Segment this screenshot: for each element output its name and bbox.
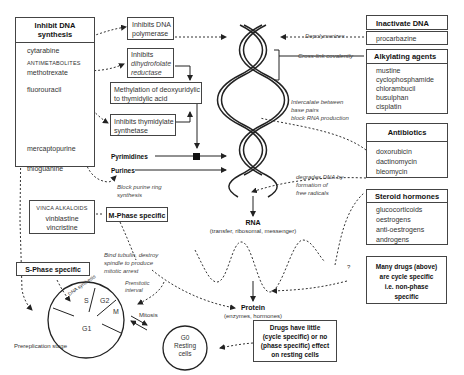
drug-methotrexate: methotrexate [27, 68, 68, 77]
alkylating-agents-box: Alkylating agents mustine cyclophosphami… [366, 49, 448, 114]
drug-vinblastine: vinblastine [30, 214, 94, 223]
text-line: mitotic arrest [104, 267, 158, 275]
inhibit-dna-synthesis-title-1: Inhibit DNA [16, 21, 94, 30]
antibiotics-title: Antibiotics [367, 128, 447, 137]
g0-label: G0 [168, 334, 202, 342]
text-line: Block purine ring [117, 183, 162, 191]
steroid-title: Steroid hormones [367, 192, 447, 201]
many-drugs-box: Many drugs (above) are cycle specific i.… [366, 256, 447, 304]
drug-vincristine: vincristine [30, 223, 94, 232]
pyrimidines-label: Pyrimidines [111, 152, 148, 161]
alkylating-title: Alkylating agents [374, 52, 436, 61]
depolymerizes-label: Depolymerizes [305, 32, 345, 41]
purines-label: Purines [111, 166, 135, 175]
vinca-alkaloids-box: VINCA ALKALOIDS vinblastine vincristine [29, 200, 95, 234]
text-line: spindle to produce [104, 259, 158, 267]
prereplication-label: Prereplication stage [14, 342, 67, 351]
text-line: are cycle specific [367, 272, 446, 281]
steroid-hormones-box: Steroid hormones glucocorticoids oestrog… [366, 189, 448, 245]
inactivate-dna-box: Inactivate DNA [366, 15, 448, 30]
inhibits-dhfr-box: Inhibits dihydrofolate reductase [127, 48, 174, 78]
phase-g2-label: G2 [100, 296, 109, 305]
drug-procarbazine: procarbazine [376, 34, 416, 43]
intercalate-label: Intercalate between base pairs block RNA… [291, 98, 349, 122]
text-line: (phase specific) effect [254, 341, 336, 350]
methylation-box: Methylation of deoxyuridylic to thymidyl… [110, 82, 202, 104]
procarbazine-box: procarbazine [366, 31, 448, 45]
phase-g1-label: G1 [82, 324, 91, 333]
inhibit-dna-synthesis-box: Inhibit DNA synthesis cytarabine ANTIMET… [15, 17, 95, 167]
vinca-label: VINCA ALKALOIDS [30, 204, 94, 213]
text-line: block RNA production [291, 114, 349, 122]
protein-title: Protein [213, 303, 293, 312]
drug-doxorubicin: doxorubicin [376, 147, 412, 156]
antibiotics-box: Antibiotics doxorubicin dactinomycin ble… [366, 123, 448, 178]
drug-anti-oestrogens: anti-oestrogens [376, 225, 424, 234]
text-line: to thymidylic acid [114, 94, 167, 103]
drug-dactinomycin: dactinomycin [376, 157, 417, 166]
rna-subtitle: (transfer, ribosomal, messenger) [193, 227, 313, 236]
drug-oestrogens: oestrogens [376, 215, 411, 224]
text-line: Bind tubulin, destroy [104, 251, 158, 259]
text-line: free radicals [296, 189, 343, 197]
inhibits-dna-polymerase-box: Inhibits DNA polymerase [127, 17, 174, 40]
s-phase-label: S-Phase specific [17, 265, 89, 274]
cross-link-label: Cross-link covalently [298, 52, 353, 61]
block-purine-label: Block purine ring synthesis [117, 183, 162, 199]
antimetabolites-label: ANTIMETABOLITES [27, 59, 81, 68]
inhibit-dna-synthesis-title-2: synthesis [16, 30, 94, 39]
phase-m-label: M [113, 307, 119, 316]
drug-thioguanine: thioguanine [27, 164, 63, 173]
drug-mercaptopurine: mercaptopurine [27, 144, 76, 153]
text-line: polymerase [132, 29, 168, 38]
drug-androgens: androgens [376, 235, 409, 244]
text-line: synthesis [117, 191, 162, 199]
text-line: Inhibits DNA [132, 20, 171, 29]
s-phase-specific-box: S-Phase specific [16, 262, 90, 276]
phase-s-label: S [84, 296, 89, 305]
text-line: interval [125, 287, 149, 294]
drug-mustine: mustine [376, 66, 401, 75]
text-line: Resting [168, 342, 202, 350]
little-effect-box: Drugs have little (cycle specific) or no… [253, 320, 337, 362]
text-line: base pairs [291, 106, 349, 114]
m-phase-label: M-Phase specific [107, 211, 167, 220]
text-line: reductase [131, 68, 162, 77]
inactivate-dna-title: Inactivate DNA [376, 19, 429, 28]
inhibits-thymidylate-box: Inhibits thymidylate synthetase [110, 114, 176, 136]
text-line: Many drugs (above) [367, 262, 446, 271]
text-line: degrades DNA by [296, 173, 343, 181]
drug-chlorambucil: chlorambucil [376, 84, 415, 93]
text-line: Premitotic [125, 280, 149, 287]
text-line: cells [168, 350, 202, 358]
text-line: specific [367, 292, 446, 301]
text-line: Inhibits [131, 50, 153, 59]
text-line: i.e. non-phase [367, 282, 446, 291]
drug-bleomycin: bleomycin [376, 167, 408, 176]
text-line: dihydrofolate [131, 59, 171, 68]
premitotic-label: Premitotic interval [125, 280, 149, 294]
drug-cisplatin: cisplatin [376, 102, 401, 111]
text-line: (cycle specific) or no [254, 332, 336, 341]
text-line: Drugs have little [254, 323, 336, 332]
rna-title: RNA [193, 218, 313, 227]
m-phase-specific-box: M-Phase specific [106, 207, 168, 222]
degrades-label: degrades DNA by formation of free radica… [296, 173, 343, 197]
resting-cells-label: G0 Resting cells [168, 334, 202, 358]
text-line: Intercalate between [291, 98, 349, 106]
bind-tubulin-label: Bind tubulin, destroy spindle to produce… [104, 251, 158, 275]
text-line: Methylation of deoxyuridylic [114, 85, 200, 94]
text-line: formation of [296, 181, 343, 189]
mitosis-label: Mitosis [139, 311, 158, 320]
text-line: Inhibits thymidylate [114, 117, 174, 126]
drug-fluorouracil: fluorouracil [27, 85, 61, 94]
drug-cytarabine: cytarabine [27, 46, 59, 55]
drug-glucocorticoids: glucocorticoids [376, 205, 422, 214]
drug-cyclophosphamide: cyclophosphamide [376, 75, 434, 84]
text-line: on resting cells [254, 350, 336, 359]
question-mark: ? [347, 263, 350, 272]
drug-busulphan: busulphan [376, 93, 408, 102]
text-line: synthetase [114, 126, 148, 135]
